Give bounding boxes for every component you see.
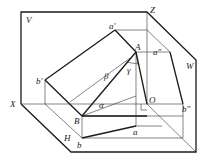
label-angle-alpha: α	[99, 100, 104, 110]
line-b-prime-B	[45, 80, 82, 116]
label-plane-W: W	[186, 61, 195, 71]
label-point-B: B	[74, 116, 80, 126]
label-plane-H: H	[63, 133, 71, 143]
label-angle-gamma: γ	[127, 65, 131, 75]
label-origin-O: O	[149, 95, 156, 105]
label-point-a-prime: a'	[109, 21, 117, 31]
label-angle-beta: β	[103, 71, 109, 81]
line-AB	[82, 52, 136, 116]
label-point-b-dprime: b″	[182, 104, 191, 114]
plane-outlines	[21, 12, 196, 152]
line-a-dprime-b-dprime	[170, 52, 183, 104]
right-angle-marker	[141, 104, 147, 110]
label-axis-Z: Z	[150, 5, 156, 15]
label-axis-X: X	[9, 99, 16, 109]
labels: V Z W X H a' A a″ b' B b a O b″ β γ α	[9, 5, 195, 150]
label-point-a-dprime: a″	[153, 47, 162, 57]
label-point-A: A	[134, 42, 141, 52]
label-point-a: a	[133, 127, 138, 137]
label-point-b-prime: b'	[36, 76, 44, 86]
line-ab	[82, 126, 136, 138]
line-A-O	[136, 52, 147, 104]
label-plane-V: V	[26, 15, 33, 25]
label-point-b: b	[77, 140, 82, 150]
line-a-prime-A	[115, 30, 136, 52]
projection-diagram: V Z W X H a' A a″ b' B b a O b″ β γ α	[0, 0, 209, 166]
